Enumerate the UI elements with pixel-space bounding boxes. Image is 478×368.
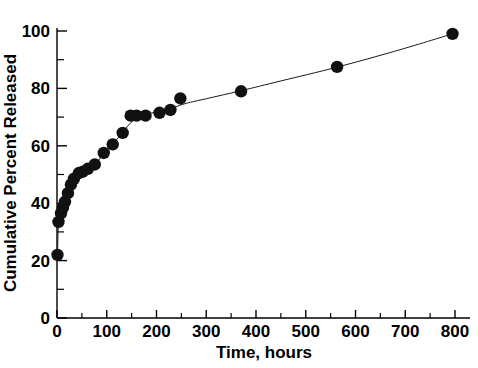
y-tick-label-80: 80 <box>31 79 50 98</box>
x-tick-label-800: 800 <box>441 322 469 341</box>
y-axis-title: Cumulative Percent Released <box>1 54 20 292</box>
data-point-group <box>51 28 458 261</box>
x-tick-label-0: 0 <box>52 322 61 341</box>
x-axis-title: Time, hours <box>216 343 312 362</box>
x-tick-label-500: 500 <box>292 322 320 341</box>
y-tick-label-0: 0 <box>41 309 50 328</box>
data-point <box>107 138 119 150</box>
data-point <box>98 147 110 159</box>
x-tick-label-100: 100 <box>93 322 121 341</box>
data-point <box>153 107 165 119</box>
data-point <box>89 158 101 170</box>
data-point <box>235 85 247 97</box>
y-axis: 020406080100 <box>22 22 67 328</box>
data-point <box>174 92 186 104</box>
y-axis-tick-labels: 020406080100 <box>22 22 50 328</box>
data-point <box>116 127 128 139</box>
data-point <box>51 249 63 261</box>
chart-figure: 020406080100 0100200300400500600700800 T… <box>0 0 478 368</box>
x-tick-label-400: 400 <box>242 322 270 341</box>
x-tick-label-200: 200 <box>142 322 170 341</box>
y-tick-label-40: 40 <box>31 194 50 213</box>
x-tick-label-700: 700 <box>391 322 419 341</box>
data-point <box>164 104 176 116</box>
y-tick-label-60: 60 <box>31 137 50 156</box>
x-axis-major-ticks <box>57 310 455 318</box>
x-axis: 0100200300400500600700800 <box>52 310 470 341</box>
data-point <box>331 61 343 73</box>
x-axis-tick-labels: 0100200300400500600700800 <box>52 322 469 341</box>
x-tick-label-300: 300 <box>192 322 220 341</box>
y-tick-label-100: 100 <box>22 22 50 41</box>
plot-canvas: 020406080100 0100200300400500600700800 T… <box>0 0 478 368</box>
data-point <box>139 109 151 121</box>
x-tick-label-600: 600 <box>341 322 369 341</box>
y-tick-label-20: 20 <box>31 252 50 271</box>
data-point <box>446 28 458 40</box>
